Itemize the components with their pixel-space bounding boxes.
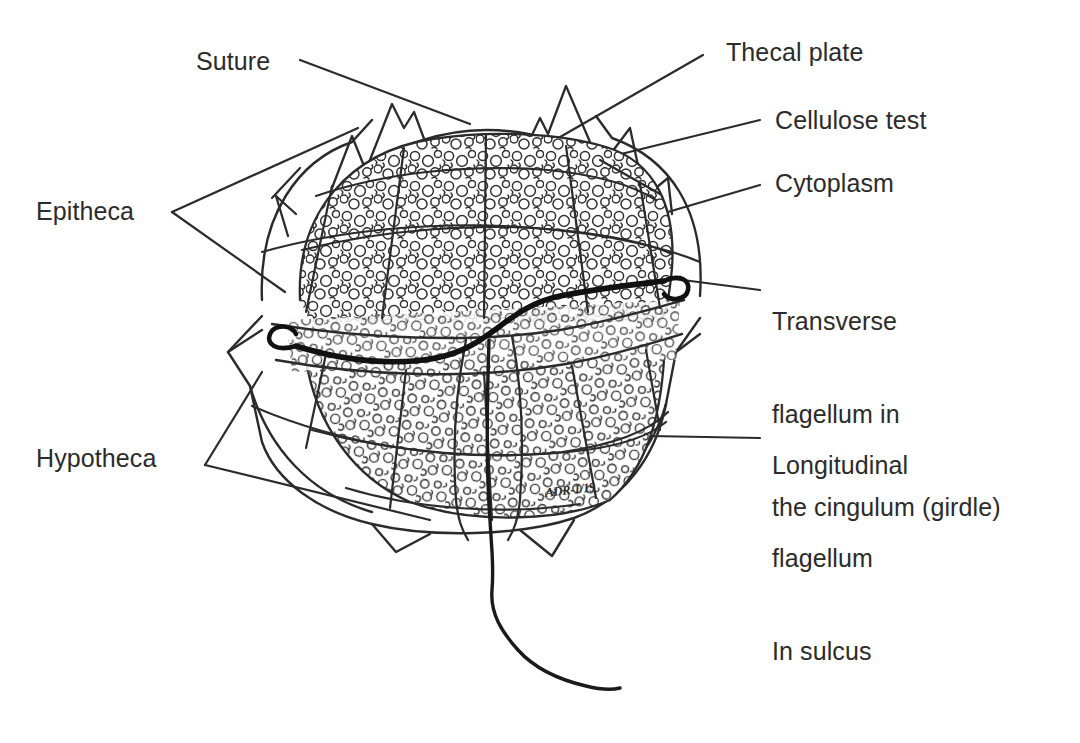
leader-suture bbox=[300, 60, 470, 124]
label-epitheca: Epitheca bbox=[36, 196, 134, 227]
label-hypotheca: Hypotheca bbox=[36, 443, 156, 474]
label-longitudinal-flagellum: Longitudinal flagellum In sulcus bbox=[772, 388, 908, 729]
label-thecal-plate: Thecal plate bbox=[726, 37, 863, 68]
leader-epitheca-lower bbox=[172, 212, 285, 292]
label-longitudinal-flagellum-line1: Longitudinal bbox=[772, 450, 908, 481]
label-suture: Suture bbox=[196, 46, 270, 77]
label-cellulose-test: Cellulose test bbox=[775, 105, 926, 136]
label-longitudinal-flagellum-line2: flagellum bbox=[772, 543, 908, 574]
figure-canvas: Suture Epitheca Hypotheca Thecal plate C… bbox=[0, 0, 1080, 743]
label-cytoplasm: Cytoplasm bbox=[775, 168, 894, 199]
label-longitudinal-flagellum-line3: In sulcus bbox=[772, 636, 908, 667]
leader-hypotheca-upper bbox=[205, 372, 262, 465]
label-transverse-flagellum-line1: Transverse bbox=[772, 306, 1001, 337]
